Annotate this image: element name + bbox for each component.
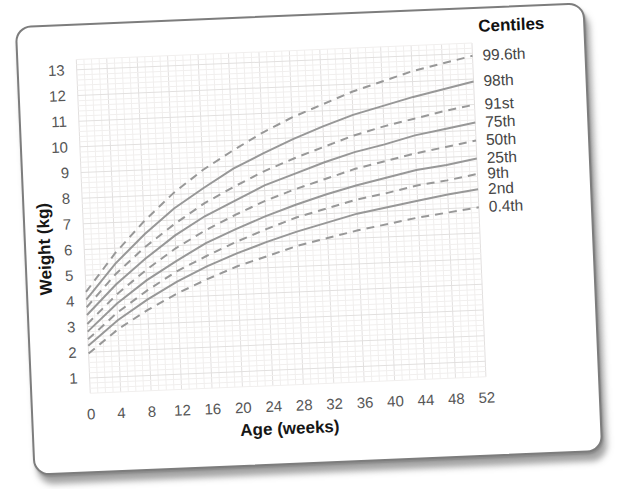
x-tick-label: 44: [417, 391, 434, 409]
y-tick-label: 12: [49, 87, 66, 105]
y-tick-label: 6: [64, 241, 73, 258]
growth-chart-card: 99.6th98th91st75th50th25th9th2nd0.4th123…: [15, 2, 603, 475]
grid-line-minor: [114, 58, 128, 392]
centile-label-75th: 75th: [485, 112, 516, 130]
plot-svg: 99.6th98th91st75th50th25th9th2nd0.4th123…: [17, 4, 601, 473]
grid-line-minor: [327, 49, 341, 383]
grid-line-minor: [160, 56, 174, 390]
grid-line-minor: [152, 56, 166, 390]
x-tick-label: 4: [117, 404, 126, 421]
grid-line-minor: [396, 46, 410, 380]
grid-line-minor: [373, 47, 387, 381]
grid-line-major: [320, 49, 334, 383]
y-tick-label: 7: [62, 215, 71, 232]
centile-label-2nd: 2nd: [488, 179, 515, 197]
centile-label-91st: 91st: [484, 94, 515, 112]
x-tick-label: 20: [235, 399, 252, 417]
grid-line-major: [137, 57, 151, 391]
centile-label-50th: 50th: [486, 130, 517, 148]
grid-line-major: [472, 43, 486, 377]
grid-line-minor: [312, 50, 326, 384]
x-tick-label: 24: [265, 397, 282, 415]
y-tick-label: 3: [67, 318, 76, 335]
y-tick-label: 4: [66, 292, 75, 309]
centiles-heading: Centiles: [478, 14, 545, 37]
centile-label-99.6th: 99.6th: [482, 45, 526, 64]
y-tick-label: 9: [60, 164, 69, 181]
y-tick-label: 8: [61, 190, 70, 207]
centile-label-0.4th: 0.4th: [488, 196, 523, 214]
grid-line-minor: [267, 52, 281, 386]
grid-line-minor: [335, 49, 349, 383]
y-tick-label: 2: [68, 344, 77, 361]
grid-line-major: [228, 53, 242, 387]
y-tick-label: 5: [65, 267, 74, 284]
grid-line-minor: [388, 47, 402, 381]
grid-line-major: [168, 56, 182, 390]
x-tick-label: 16: [204, 400, 221, 418]
x-tick-label: 40: [387, 392, 404, 410]
grid-line-major: [198, 54, 212, 388]
grid-line-minor: [206, 54, 220, 388]
grid-line-minor: [274, 51, 288, 385]
grid-line-major: [107, 58, 121, 392]
x-tick-label: 36: [356, 393, 373, 411]
grid-line-minor: [236, 53, 250, 387]
page: 99.6th98th91st75th50th25th9th2nd0.4th123…: [0, 0, 620, 489]
grid-line-minor: [122, 58, 136, 392]
grid-line-minor: [426, 45, 440, 379]
x-tick-label: 52: [478, 388, 495, 406]
grid-line-minor: [305, 50, 319, 384]
y-tick-label: 10: [51, 138, 68, 156]
y-tick-label: 11: [51, 113, 67, 131]
y-tick-label: 13: [48, 61, 65, 79]
grid-line-minor: [358, 48, 372, 382]
grid-line-minor: [175, 55, 189, 389]
x-tick-label: 0: [87, 405, 96, 422]
grid-line-minor: [434, 45, 448, 379]
x-tick-label: 8: [147, 403, 156, 420]
grid-line-minor: [244, 53, 258, 387]
x-tick-label: 12: [174, 401, 191, 419]
grid-line-major: [381, 47, 395, 381]
centile-label-98th: 98th: [483, 71, 514, 89]
grid-line-minor: [365, 47, 379, 381]
y-tick-label: 1: [69, 369, 78, 386]
x-tick-label: 32: [326, 395, 343, 413]
x-tick-label: 48: [448, 390, 465, 408]
x-tick-label: 28: [295, 396, 312, 414]
grid-line-major: [76, 60, 90, 394]
